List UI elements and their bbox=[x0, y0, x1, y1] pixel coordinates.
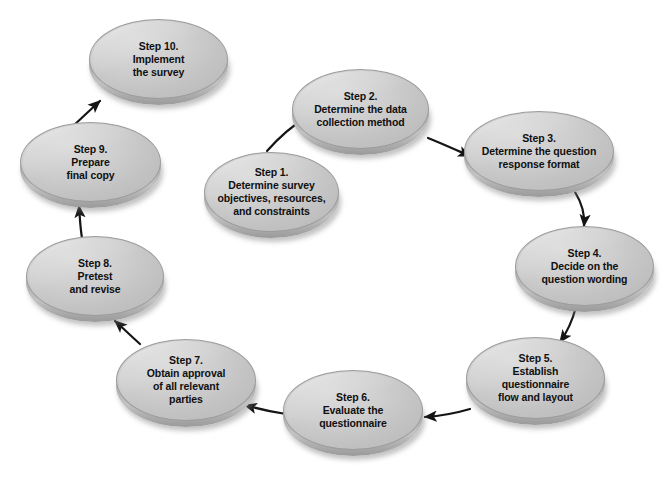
node-step-text: Determine survey bbox=[228, 179, 315, 192]
process-node-8[interactable]: Step 8.Pretestand revise bbox=[26, 236, 164, 316]
node-step-number: Step 2. bbox=[344, 90, 378, 103]
node-step-number: Step 7. bbox=[169, 354, 203, 367]
node-label: Step 5.Establishquestionnaireflow and la… bbox=[474, 337, 596, 419]
node-step-text: question wording bbox=[542, 273, 628, 286]
arrow-5-to-6 bbox=[425, 409, 470, 417]
node-step-number: Step 3. bbox=[522, 132, 556, 145]
process-node-4[interactable]: Step 4.Decide on thequestion wording bbox=[515, 226, 654, 306]
node-label: Step 7.Obtain approvalof all relevantpar… bbox=[124, 339, 247, 421]
process-node-3[interactable]: Step 3.Determine the questionresponse fo… bbox=[464, 111, 614, 191]
node-step-text: and revise bbox=[70, 283, 121, 296]
node-step-number: Step 6. bbox=[336, 391, 370, 404]
node-step-text: parties bbox=[169, 393, 203, 406]
node-step-text: flow and layout bbox=[498, 391, 573, 404]
node-step-text: Evaluate the bbox=[323, 404, 384, 417]
node-step-number: Step 8. bbox=[78, 257, 112, 270]
node-step-number: Step 10. bbox=[139, 40, 178, 53]
process-node-1[interactable]: Step 1.Determine surveyobjectives, resou… bbox=[204, 152, 339, 232]
node-step-text: Determine the data bbox=[314, 103, 407, 116]
node-step-number: Step 5. bbox=[519, 352, 553, 365]
node-label: Step 6.Evaluate thequestionnaire bbox=[291, 370, 414, 450]
node-step-text: Decide on the bbox=[551, 260, 619, 273]
process-node-9[interactable]: Step 9.Preparefinal copy bbox=[20, 122, 161, 202]
node-step-text: response format bbox=[499, 158, 580, 171]
node-step-text: Obtain approval bbox=[147, 367, 225, 380]
node-step-text: final copy bbox=[66, 169, 114, 182]
process-node-5[interactable]: Step 5.Establishquestionnaireflow and la… bbox=[466, 337, 605, 419]
process-node-7[interactable]: Step 7.Obtain approvalof all relevantpar… bbox=[116, 339, 256, 421]
node-label: Step 3.Determine the questionresponse fo… bbox=[473, 111, 605, 191]
process-node-2[interactable]: Step 2.Determine the datacollection meth… bbox=[292, 69, 429, 149]
arrow-3-to-4 bbox=[575, 192, 584, 226]
process-node-10[interactable]: Step 10.Implementthe survey bbox=[89, 19, 228, 99]
process-node-6[interactable]: Step 6.Evaluate thequestionnaire bbox=[283, 370, 423, 450]
node-label: Step 2.Determine the datacollection meth… bbox=[300, 69, 421, 149]
node-step-text: Establish bbox=[513, 365, 559, 378]
node-step-text: Implement bbox=[133, 53, 185, 66]
node-step-number: Step 9. bbox=[74, 143, 108, 156]
node-label: Step 1.Determine surveyobjectives, resou… bbox=[212, 152, 331, 232]
node-label: Step 8.Pretestand revise bbox=[34, 236, 155, 316]
node-label: Step 10.Implementthe survey bbox=[97, 19, 219, 99]
node-step-text: objectives, resources, bbox=[217, 192, 325, 205]
node-step-text: questionnaire bbox=[319, 417, 387, 430]
diagram-canvas: Step 1.Determine surveyobjectives, resou… bbox=[0, 0, 672, 482]
node-step-text: collection method bbox=[316, 116, 404, 129]
node-step-number: Step 1. bbox=[255, 166, 289, 179]
node-step-text: of all relevant bbox=[153, 380, 219, 393]
arrow-8-to-9 bbox=[79, 206, 82, 238]
node-label: Step 9.Preparefinal copy bbox=[28, 122, 152, 202]
node-step-text: the survey bbox=[133, 66, 185, 79]
node-label: Step 4.Decide on thequestion wording bbox=[523, 226, 645, 306]
node-step-number: Step 4. bbox=[568, 247, 602, 260]
node-step-text: questionnaire bbox=[502, 378, 570, 391]
node-step-text: Prepare bbox=[71, 156, 109, 169]
node-step-text: Determine the question bbox=[482, 145, 597, 158]
node-step-text: and constraints bbox=[233, 205, 310, 218]
node-step-text: Pretest bbox=[78, 270, 113, 283]
